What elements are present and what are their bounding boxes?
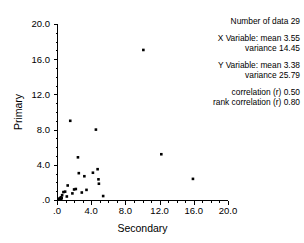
stats-correlation-line: correlation (r) 0.50: [172, 87, 300, 97]
stats-x-variance-line: variance 14.45: [172, 43, 300, 53]
stats-y-variable-group: Y Variable: mean 3.38 variance 25.79: [172, 60, 300, 80]
data-point: [96, 168, 99, 171]
data-point: [92, 171, 95, 174]
x-tick-label: .0: [53, 205, 61, 216]
stats-y-variance-value: 25.79: [279, 70, 300, 80]
data-point: [75, 188, 78, 191]
x-tick-label: 8.0: [119, 205, 132, 216]
stats-x-variance-label: variance: [245, 43, 277, 53]
data-point: [78, 172, 81, 175]
stats-correlation-value: 0.50: [284, 87, 300, 97]
stats-rank-correlation-value: 0.80: [284, 97, 300, 107]
stats-y-variance-label: variance: [245, 70, 277, 80]
stats-x-variable-group: X Variable: mean 3.55 variance 14.45: [172, 33, 300, 53]
data-point: [80, 191, 83, 194]
data-point: [97, 178, 100, 181]
stats-y-mean-value: 3.38: [284, 60, 300, 70]
stats-count-group: Number of data 29: [172, 16, 300, 26]
data-point: [66, 184, 69, 187]
stats-x-mean-value: 3.55: [284, 33, 300, 43]
data-point: [102, 195, 105, 198]
data-point: [192, 178, 195, 181]
stats-x-variable-label: X Variable: mean: [218, 33, 282, 43]
x-tick-label: 12.0: [150, 205, 169, 216]
stats-correlation-label: correlation (r): [232, 87, 282, 97]
x-axis-title: Secondary: [117, 222, 168, 234]
data-point: [83, 175, 86, 178]
stats-rank-correlation-label: rank correlation (r): [213, 97, 281, 107]
y-tick-label: 20.0: [32, 18, 51, 29]
stats-rank-correlation-line: rank correlation (r) 0.80: [172, 97, 300, 107]
y-axis-title: Primary: [12, 93, 24, 130]
stats-count-label: Number of data: [231, 16, 289, 26]
data-point: [71, 192, 74, 195]
x-tick-label: 4.0: [85, 205, 98, 216]
stats-y-mean-line: Y Variable: mean 3.38: [172, 60, 300, 70]
y-tick-label: 4.0: [37, 159, 50, 170]
data-point: [77, 156, 80, 159]
x-tick-label: 16.0: [185, 205, 204, 216]
stats-y-variable-label: Y Variable: mean: [218, 60, 281, 70]
stats-count-value: 29: [291, 16, 300, 26]
stats-x-mean-line: X Variable: mean 3.55: [172, 33, 300, 43]
x-tick-label: 20.0: [219, 205, 238, 216]
scatter-plot-figure: .04.08.012.016.020.0.04.08.012.016.020.0…: [0, 0, 304, 243]
y-tick-label: 12.0: [32, 89, 51, 100]
data-point: [61, 194, 64, 197]
stats-count-line: Number of data 29: [172, 16, 300, 26]
data-point: [60, 197, 63, 200]
data-point: [64, 190, 67, 193]
data-point: [160, 153, 163, 156]
data-point: [98, 182, 101, 185]
data-point: [66, 195, 69, 198]
y-tick-label: 8.0: [37, 124, 50, 135]
data-point: [142, 49, 145, 52]
data-point: [85, 189, 88, 192]
stats-y-variance-line: variance 25.79: [172, 70, 300, 80]
data-point: [95, 128, 98, 131]
y-tick-label: 16.0: [32, 54, 51, 65]
statistics-panel: Number of data 29 X Variable: mean 3.55 …: [172, 16, 300, 114]
stats-x-variance-value: 14.45: [279, 43, 300, 53]
data-point: [69, 120, 72, 123]
stats-correlation-group: correlation (r) 0.50 rank correlation (r…: [172, 87, 300, 107]
y-tick-label: .0: [42, 194, 50, 205]
